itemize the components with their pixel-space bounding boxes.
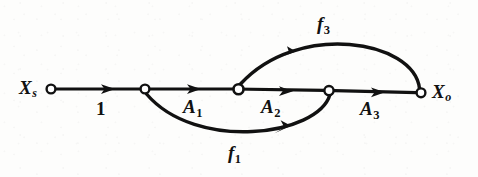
node-label-xo: Xo (432, 82, 451, 101)
edge-label-gain-a3-sub: 3 (373, 108, 379, 122)
edge-feedback-f1 (147, 94, 331, 132)
edge-label-feedback-f1-base: f (228, 142, 234, 163)
edge-label-gain-1: 1 (96, 99, 106, 118)
edge-label-feedback-f3: f3 (317, 14, 330, 33)
node-label-xo-sub: o (445, 90, 451, 104)
edge-label-feedback-f3-sub: 3 (324, 23, 330, 37)
node-label-xs: Xs (19, 78, 36, 97)
edge-label-gain-a1: A1 (183, 97, 202, 116)
node-label-xs-sub: s (32, 86, 37, 100)
edge-label-gain-a3-base: A (360, 98, 373, 119)
edge-label-gain-a3: A3 (360, 99, 379, 118)
node-3 (234, 84, 244, 94)
edge-label-gain-a2: A2 (261, 97, 280, 116)
edge-label-gain-a1-base: A (183, 96, 196, 117)
node-xs (47, 85, 56, 94)
signal-flow-graph-figure: Xs Xo 1 A1 A2 A3 f1 f3 (0, 0, 478, 177)
edge-label-gain-a2-sub: 2 (274, 106, 280, 120)
edge-label-feedback-f3-base: f (317, 13, 323, 34)
edge-label-feedback-f1: f1 (228, 143, 241, 162)
node-4 (324, 86, 333, 95)
edge-feedback-f3 (241, 44, 420, 89)
node-xo (417, 88, 426, 97)
node-2 (141, 85, 150, 94)
node-label-xo-base: X (432, 81, 445, 102)
edge-label-feedback-f1-sub: 1 (235, 152, 241, 166)
edge-label-gain-a1-sub: 1 (196, 106, 202, 120)
node-label-xs-base: X (19, 77, 32, 98)
edge-label-gain-a2-base: A (261, 96, 274, 117)
